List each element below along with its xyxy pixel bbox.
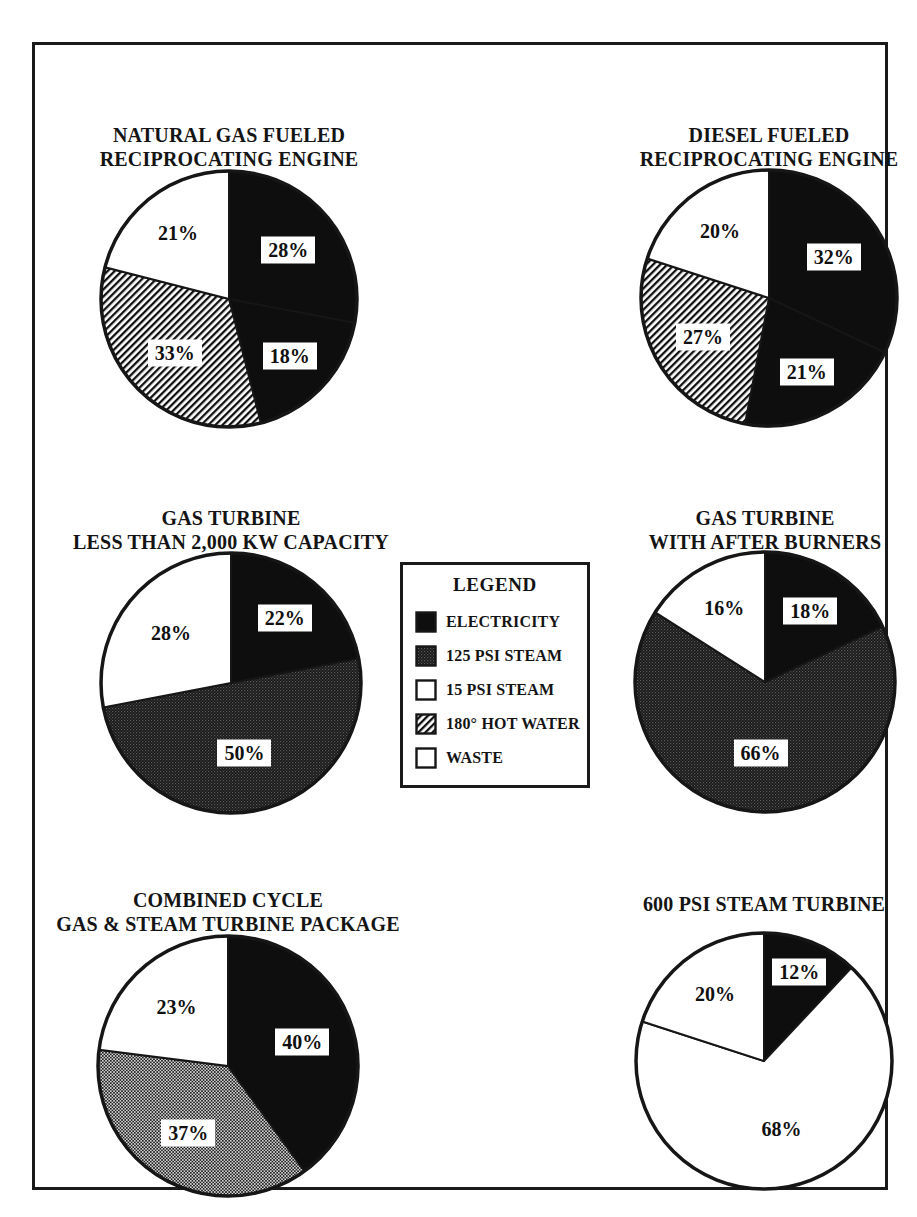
legend-label: 15 PSI STEAM <box>446 681 554 699</box>
pie-chart-600-psi-steam-turbine: 12%68%20% <box>632 929 896 1193</box>
pie-chart-gas-turbine-under-2000-kw: 22%50%28% <box>97 549 365 817</box>
legend-item-125-psi-steam: 125 PSI STEAM <box>415 645 587 667</box>
legend-item-waste: WASTE <box>415 747 587 769</box>
pie <box>637 166 901 430</box>
slice-label-waste: 20% <box>700 220 740 242</box>
slice-label-electricity: 32% <box>807 243 861 270</box>
slice-label-125-psi-steam: 50% <box>217 740 271 767</box>
pie <box>632 929 896 1193</box>
pie <box>97 549 365 817</box>
pie-chart-combined-cycle-gas-steam-turbine-package: 40%37%23% <box>94 932 362 1200</box>
slice-label-15-psi-steam: 68% <box>762 1118 802 1140</box>
legend-label: 180° HOT WATER <box>446 715 580 733</box>
slice-label-125-psi-steam: 18% <box>263 342 317 369</box>
pie <box>97 167 361 431</box>
legend-swatch-125-psi-steam <box>415 645 437 667</box>
slice-label-125-psi-steam: 21% <box>780 359 834 386</box>
legend-label: 125 PSI STEAM <box>446 647 562 665</box>
slice-label-180-hot-water: 33% <box>148 340 202 367</box>
legend-title: LEGEND <box>403 574 587 596</box>
slice-label-electricity: 40% <box>275 1028 329 1055</box>
pie-chart-gas-turbine-with-after-burners: 18%66%16% <box>631 548 899 816</box>
legend-item-15-psi-steam: 15 PSI STEAM <box>415 679 587 701</box>
chart-title-gas-turbine-under-2000-kw: GAS TURBINELESS THAN 2,000 KW CAPACITY <box>41 506 421 554</box>
chart-title-600-psi-steam-turbine: 600 PSI STEAM TURBINE <box>574 892 917 916</box>
slice-label-electricity: 12% <box>772 958 826 985</box>
legend-label: ELECTRICITY <box>446 613 560 631</box>
chart-title-gas-turbine-with-after-burners: GAS TURBINEWITH AFTER BURNERS <box>575 506 917 554</box>
chart-title-line: GAS TURBINE <box>575 506 917 530</box>
figure-frame: NATURAL GAS FUELEDRECIPROCATING ENGINE28… <box>32 42 888 1190</box>
slice-label-electricity: 28% <box>261 237 315 264</box>
pie <box>94 932 362 1200</box>
legend-swatch-waste <box>415 747 437 769</box>
slice-label-waste: 21% <box>158 222 198 244</box>
legend-swatch-electricity <box>415 611 437 633</box>
chart-title-line: NATURAL GAS FUELED <box>39 123 419 147</box>
legend: LEGEND ELECTRICITY125 PSI STEAM15 PSI ST… <box>400 562 590 788</box>
chart-title-line: DIESEL FUELED <box>579 123 917 147</box>
pie-chart-natural-gas-reciprocating-engine: 28%18%33%21% <box>97 167 361 431</box>
slice-label-electricity: 18% <box>783 597 837 624</box>
legend-items: ELECTRICITY125 PSI STEAM15 PSI STEAM180°… <box>403 611 587 769</box>
slice-label-electricity: 22% <box>258 604 312 631</box>
slice-label-180-hot-water: 27% <box>676 324 730 351</box>
legend-label: WASTE <box>446 749 503 767</box>
chart-title-line: COMBINED CYCLE <box>38 888 418 912</box>
slice-label-waste: 20% <box>695 983 735 1005</box>
chart-title-natural-gas-reciprocating-engine: NATURAL GAS FUELEDRECIPROCATING ENGINE <box>39 123 419 171</box>
legend-item-electricity: ELECTRICITY <box>415 611 587 633</box>
slice-label-waste: 23% <box>156 996 196 1018</box>
chart-title-diesel-reciprocating-engine: DIESEL FUELEDRECIPROCATING ENGINE <box>579 123 917 171</box>
pie-chart-diesel-reciprocating-engine: 32%21%27%20% <box>637 166 901 430</box>
slice-label-waste: 16% <box>704 597 744 619</box>
legend-swatch-15-psi-steam <box>415 679 437 701</box>
chart-title-line: 600 PSI STEAM TURBINE <box>574 892 917 916</box>
scanned-page: { "palette": { "ink": "#161616", "paper"… <box>0 0 917 1217</box>
slice-label-125-psi-steam: 66% <box>734 740 788 767</box>
legend-swatch-180-hot-water <box>415 713 437 735</box>
pie <box>631 548 899 816</box>
slice-label-125-psi-steam: 37% <box>161 1120 215 1147</box>
chart-title-line: GAS TURBINE <box>41 506 421 530</box>
chart-title-combined-cycle-gas-steam-turbine-package: COMBINED CYCLEGAS & STEAM TURBINE PACKAG… <box>38 888 418 936</box>
legend-item-180-hot-water: 180° HOT WATER <box>415 713 587 735</box>
slice-label-waste: 28% <box>151 622 191 644</box>
